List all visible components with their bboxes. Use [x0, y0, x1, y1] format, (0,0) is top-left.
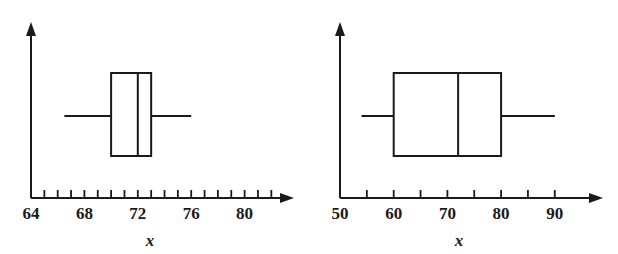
right-box-group: [361, 73, 554, 156]
left-boxplot-panel: 6468727680 x: [0, 0, 309, 254]
left-x-axis-title: x: [145, 231, 155, 250]
axis-tick-label: 70: [439, 204, 456, 223]
left-box-group: [64, 73, 191, 156]
box-iqr: [394, 73, 501, 156]
axis-tick-label: 64: [23, 204, 41, 223]
right-tick-labels-group: 5060708090: [332, 204, 564, 223]
axis-tick-label: 80: [493, 204, 510, 223]
left-boxplot-svg: 6468727680 x: [0, 0, 309, 254]
left-axes-group: [26, 22, 294, 203]
right-boxplot-svg: 5060708090 x: [309, 0, 618, 254]
x-axis-arrow-icon: [589, 193, 603, 203]
axis-tick-label: 76: [183, 204, 200, 223]
axis-tick-label: 68: [76, 204, 93, 223]
right-boxplot-panel: 5060708090 x: [309, 0, 618, 254]
y-axis-arrow-icon: [26, 22, 36, 36]
right-x-axis-title: x: [454, 231, 464, 250]
axis-tick-label: 72: [129, 204, 146, 223]
y-axis-arrow-icon: [335, 22, 345, 36]
left-tick-labels-group: 6468727680: [23, 204, 254, 223]
axis-tick-label: 80: [236, 204, 253, 223]
axis-tick-label: 90: [546, 204, 563, 223]
axis-tick-label: 60: [385, 204, 402, 223]
boxplot-figure: 6468727680 x 5060708090 x: [0, 0, 618, 254]
x-axis-arrow-icon: [280, 193, 294, 203]
axis-tick-label: 50: [332, 204, 349, 223]
box-iqr: [111, 73, 151, 156]
